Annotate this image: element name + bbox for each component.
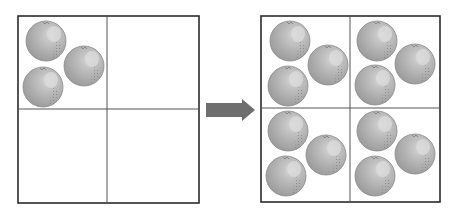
orange-icon <box>270 21 310 61</box>
orange-icon <box>306 135 346 175</box>
orange-icon <box>268 111 308 151</box>
orange-icon <box>266 156 306 196</box>
orange-icon <box>26 21 66 61</box>
right-arrow-icon <box>206 99 255 121</box>
orange-icon <box>308 45 348 85</box>
right-grid <box>261 16 440 202</box>
diagram-stage <box>0 0 452 215</box>
orange-icon <box>355 156 395 196</box>
diagram-canvas <box>0 0 452 215</box>
orange-icon <box>355 65 395 105</box>
orange-icon <box>357 111 397 151</box>
orange-icon <box>64 46 104 86</box>
orange-icon <box>395 44 435 84</box>
left-grid <box>18 16 199 203</box>
orange-icon <box>357 21 397 61</box>
orange-icon <box>395 134 435 174</box>
orange-icon <box>268 66 308 106</box>
orange-icon <box>23 67 63 107</box>
